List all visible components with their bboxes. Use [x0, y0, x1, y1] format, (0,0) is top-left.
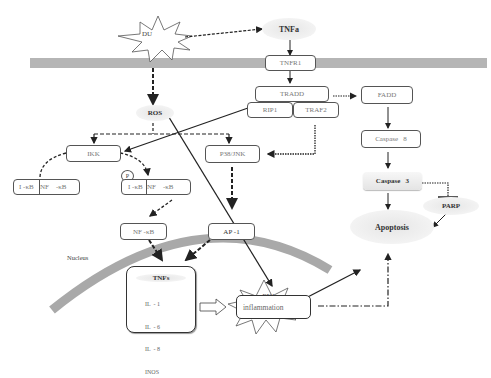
ikb-nfkb-complex-phosphorylated: I -κB NF -κB — [121, 179, 191, 195]
caspase3-label: Caspase 3 — [376, 177, 409, 185]
traf2-label: TRAF2 — [305, 106, 326, 114]
tnfa-ellipse: TNFa — [262, 18, 316, 40]
nucleus-label: Nucleus — [67, 254, 88, 261]
ikb-nfkb-complex-left: I -κB NF -κB — [13, 179, 80, 195]
cytokine-list: IL - 1 IL - 6 IL - 8 INOS — [127, 286, 160, 378]
cytokine-item: IL - 8 — [145, 346, 160, 354]
fadd-label: FADD — [378, 91, 397, 99]
nfkb-label: NF -κB — [133, 228, 154, 236]
tnfr1-box: TNFR1 — [265, 55, 316, 71]
du-label: DU — [142, 30, 152, 38]
tnfr1-label: TNFR1 — [280, 59, 301, 67]
ikk-label: IKK — [87, 150, 99, 158]
cytokines-box: TNFs IL - 1 IL - 6 IL - 8 INOS — [126, 266, 196, 333]
ros-label: ROS — [148, 109, 162, 117]
cytokine-item: INOS — [145, 369, 160, 377]
rip1-box: RIP1 — [247, 102, 293, 118]
p38jnk-box: P38/JNK — [205, 145, 260, 163]
hollow-arrow-icon — [200, 299, 226, 315]
rip1-label: RIP1 — [263, 106, 277, 114]
cytokine-item: IL - 1 — [145, 301, 160, 309]
apoptosis-label: Apoptosis — [375, 223, 409, 232]
ap1-box: AP -1 — [208, 223, 255, 240]
parp-label: PARP — [442, 202, 460, 210]
tradd-box: TRADD — [255, 86, 329, 102]
caspase3-box: Caspase 3 — [363, 172, 422, 190]
nfkb-label: NF -κB — [40, 183, 66, 191]
ikk-box: IKK — [66, 145, 121, 162]
tnfa-label: TNFa — [279, 25, 299, 34]
ikb-label: I -κB — [128, 183, 143, 191]
tradd-label: TRADD — [280, 90, 304, 98]
du-starburst-icon — [118, 16, 192, 62]
cytokine-item: IL - 6 — [145, 324, 160, 332]
caspase8-label: Caspase 8 — [375, 135, 407, 143]
tnfs-label: TNFs — [153, 274, 170, 282]
parp-ellipse: PARP — [423, 197, 479, 215]
fadd-box: FADD — [361, 86, 413, 104]
nfkb-box: NF -κB — [120, 223, 167, 240]
ap1-label: AP -1 — [223, 228, 239, 236]
p38jnk-label: P38/JNK — [220, 150, 246, 158]
nfkb-label: NF -κB — [147, 183, 173, 191]
inflammation-label: inflammation — [243, 303, 283, 312]
caspase8-box: Caspase 8 — [361, 130, 421, 148]
tnfs-ellipse: TNFs — [136, 274, 186, 282]
apoptosis-ellipse: Apoptosis — [350, 210, 434, 244]
traf2-box: TRAF2 — [293, 102, 339, 118]
inflammation-box: inflammation — [236, 295, 311, 319]
ikb-label: I -κB — [19, 183, 34, 191]
ros-ellipse: ROS — [136, 105, 174, 121]
